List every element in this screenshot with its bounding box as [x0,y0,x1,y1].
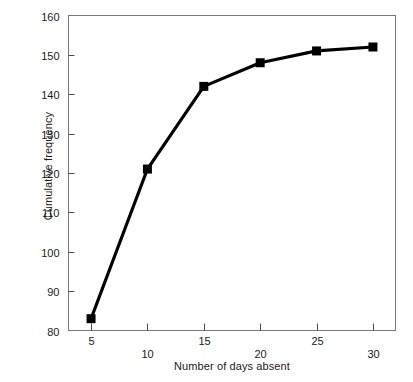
cumulative-frequency-chart: 1601501401301201101009080 51015202530 [0,0,413,382]
x-tick-label: 30 [367,348,379,360]
x-tick-label: 5 [88,335,94,347]
data-point-marker [368,43,377,52]
y-axis-title: Cumulative frequency [42,56,54,276]
y-tick-label: 80 [47,326,59,338]
figure: 1601501401301201101009080 51015202530 Cu… [0,0,413,382]
y-tick-label: 90 [47,286,59,298]
plot-frame [69,16,396,331]
data-point-marker [199,82,208,91]
data-point-marker [312,46,321,55]
x-axis-title: Number of days absent [68,360,396,372]
y-tick-label: 160 [41,11,59,23]
x-tick-label: 25 [311,335,323,347]
x-tick-label: 20 [254,348,266,360]
data-point-marker [256,58,265,67]
x-tick-label: 10 [141,348,153,360]
data-point-marker [143,165,152,174]
x-axis-tick-labels: 51015202530 [88,335,379,360]
data-point-marker [87,314,96,323]
figure-caption [0,372,413,382]
x-tick-label: 15 [198,335,210,347]
